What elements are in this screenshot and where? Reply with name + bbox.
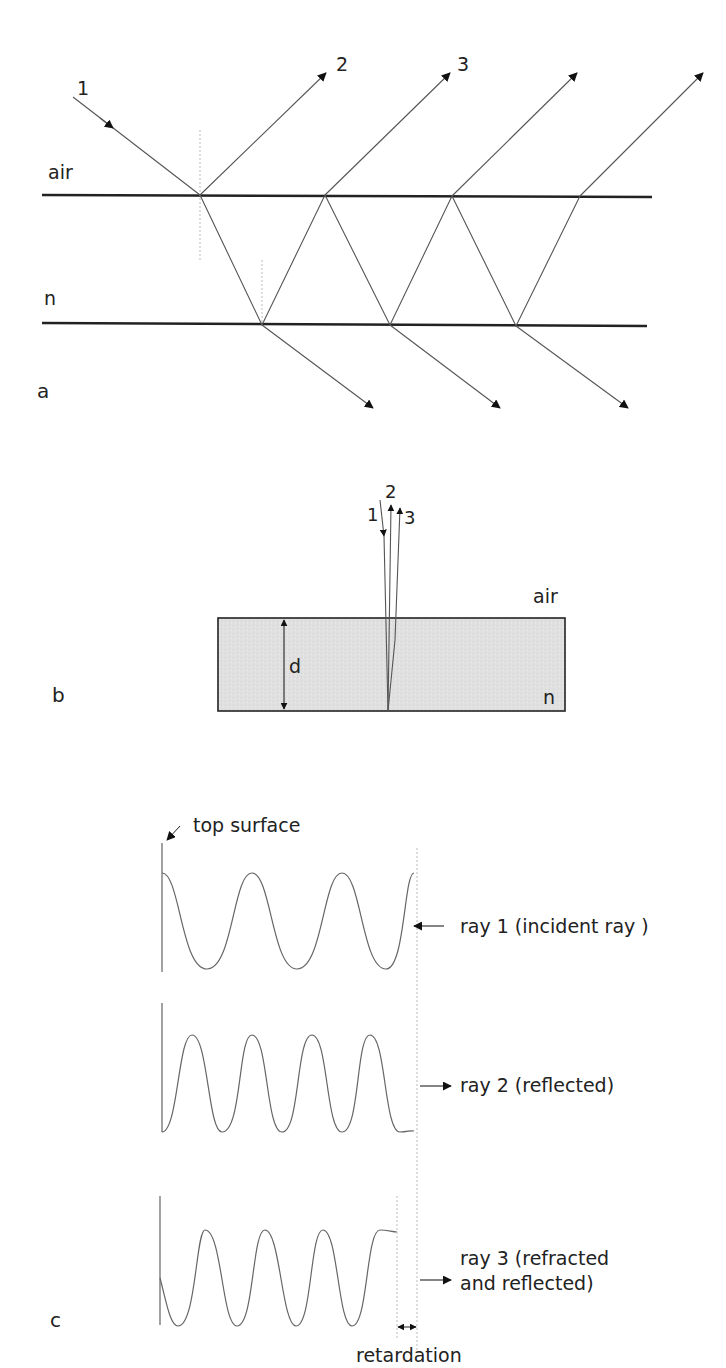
- ray-label-2: 2: [336, 53, 348, 75]
- ray-3-label-line1: ray 3 (refracted: [460, 1247, 609, 1269]
- reflected-ray-2: [200, 73, 326, 195]
- medium-label-air: air: [48, 161, 73, 183]
- arrow-head-icon: [100, 118, 113, 128]
- top-surface-arrow: [167, 826, 180, 840]
- wave-ray-1: [162, 873, 414, 969]
- reflected-ray-4: [452, 73, 577, 196]
- air-film-interface: [42, 195, 652, 197]
- reflected-ray-3: [325, 73, 450, 195]
- ray-label-3: 3: [457, 53, 469, 75]
- panel-label-c: c: [50, 1308, 61, 1332]
- medium-label-n: n: [44, 287, 56, 309]
- transmitted-ray: [516, 326, 628, 408]
- medium-label-n: n: [543, 686, 555, 708]
- panel-a: 1 2 3 air n a: [37, 53, 703, 408]
- top-surface-label: top surface: [193, 814, 300, 836]
- ray-label-1: 1: [367, 504, 378, 525]
- incident-ray-1: [73, 97, 200, 195]
- ray-label-3: 3: [404, 507, 415, 528]
- film-substrate-interface: [42, 323, 647, 326]
- thickness-label-d: d: [289, 655, 301, 677]
- medium-label-air: air: [533, 585, 558, 607]
- panel-c: top surface ray 1 (incident ray ) ray 2 …: [50, 814, 649, 1366]
- panel-b: d 1 2 3 air n b: [52, 481, 565, 711]
- wave-ray-3: [160, 1230, 397, 1326]
- ray-3-label-line2: and reflected): [460, 1272, 594, 1294]
- film-block: [218, 618, 565, 711]
- ray-label-1: 1: [77, 77, 89, 99]
- ray-label-2: 2: [385, 481, 396, 502]
- retardation-label: retardation: [356, 1344, 462, 1366]
- ray-1-label: ray 1 (incident ray ): [460, 915, 649, 937]
- ray-2-label: ray 2 (reflected): [460, 1074, 614, 1096]
- transmitted-ray: [262, 325, 373, 408]
- panel-label-b: b: [52, 683, 65, 707]
- thin-film-interference-diagram: 1 2 3 air n a d 1 2 3 air n b top surfac…: [0, 0, 726, 1368]
- panel-label-a: a: [37, 379, 49, 403]
- reflected-ray-5: [580, 73, 703, 196]
- incident-ray-1: [380, 500, 384, 536]
- transmitted-ray: [390, 325, 500, 408]
- internal-reflection-path: [200, 195, 580, 326]
- wave-ray-2: [162, 1035, 414, 1132]
